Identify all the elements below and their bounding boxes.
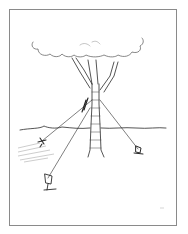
tree-canopy — [32, 38, 143, 57]
stake-left — [38, 138, 46, 147]
tree-illustration — [0, 0, 188, 234]
branch-left — [72, 58, 92, 88]
coloring-page — [0, 0, 188, 234]
branch-right — [100, 62, 118, 92]
guy-rope-right — [100, 100, 138, 149]
ground-line — [20, 126, 166, 130]
tree-trunk — [88, 84, 104, 157]
guy-rope-left — [42, 100, 92, 141]
stake-right — [134, 146, 143, 154]
stake-front — [44, 174, 56, 190]
ground-hatching — [18, 143, 54, 162]
